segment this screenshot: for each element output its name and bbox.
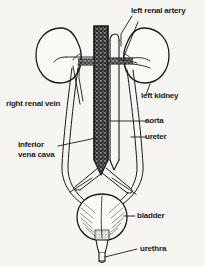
label-aorta: aorta	[145, 116, 164, 126]
label-urethra: urethra	[140, 244, 166, 254]
anatomy-illustration	[0, 0, 205, 267]
label-left-kidney: left kidney	[141, 91, 178, 101]
leader-urethra	[105, 249, 137, 257]
bladder-shape	[77, 194, 127, 244]
right-ureter-tube	[62, 68, 88, 205]
aorta-vessel	[94, 26, 108, 175]
label-inferior-vena-cava-line1: inferior	[18, 140, 44, 149]
left-ureter-tube	[117, 70, 143, 205]
urethra-tube	[96, 240, 108, 263]
left-kidney-shape	[119, 28, 169, 83]
label-left-renal-artery: left renal artery	[131, 6, 185, 16]
label-bladder: bladder	[137, 211, 165, 221]
inferior-vena-cava-vessel	[110, 34, 119, 170]
label-right-renal-vein: right renal vein	[6, 99, 60, 109]
label-ureter: ureter	[145, 132, 166, 142]
label-inferior-vena-cava-line2: vena cava	[18, 150, 54, 159]
right-kidney-shape	[36, 28, 86, 83]
urinary-system-figure: left renal artery left kidney right rena…	[0, 0, 205, 267]
label-inferior-vena-cava: inferior vena cava	[18, 140, 72, 159]
